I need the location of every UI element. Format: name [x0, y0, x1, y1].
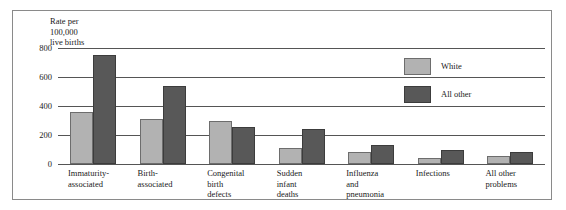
- bar-groups: [58, 48, 545, 164]
- x-category-label: Immaturity- associated: [68, 168, 144, 189]
- y-tick-label: 200: [26, 131, 52, 140]
- y-tick-label: 800: [26, 44, 52, 53]
- bar: [140, 119, 163, 164]
- bar: [487, 156, 510, 164]
- bar-group: [140, 48, 186, 164]
- bar: [302, 129, 325, 164]
- bar: [441, 150, 464, 165]
- x-category-label: Sudden infant deaths: [277, 168, 353, 200]
- bar: [371, 145, 394, 164]
- x-category-label: Birth- associated: [138, 168, 214, 189]
- x-category-label: Infections: [416, 168, 492, 179]
- x-axis-category-labels: Immaturity- associatedBirth- associatedC…: [58, 168, 545, 208]
- y-tick-label: 600: [26, 73, 52, 82]
- gridline-0: [58, 164, 545, 165]
- y-axis-tick-labels: 8006004002000: [26, 48, 52, 164]
- legend-item: All other: [404, 86, 471, 103]
- legend-swatch-icon: [404, 58, 431, 75]
- bar: [209, 121, 232, 164]
- bar-group: [487, 48, 533, 164]
- legend-item: White: [404, 58, 471, 75]
- y-tick-label: 0: [26, 160, 52, 169]
- bar-group: [70, 48, 116, 164]
- bar: [510, 152, 533, 164]
- y-tick-label: 400: [26, 102, 52, 111]
- bar: [279, 148, 302, 164]
- chart-legend: WhiteAll other: [404, 58, 471, 114]
- x-category-label: All other problems: [485, 168, 561, 189]
- bar-group: [209, 48, 255, 164]
- legend-label: All other: [441, 90, 471, 99]
- bar: [348, 152, 371, 164]
- bar: [418, 158, 441, 164]
- x-category-label: Influenza and pneumonia: [346, 168, 422, 200]
- bar-group: [279, 48, 325, 164]
- plot-area: [58, 48, 545, 164]
- chart-figure: Rate per 100,000 live births 80060040020…: [0, 0, 566, 210]
- bar: [163, 86, 186, 164]
- bar-group: [348, 48, 394, 164]
- y-axis-title: Rate per 100,000 live births: [50, 16, 84, 48]
- bar: [93, 55, 116, 164]
- x-category-label: Congenital birth defects: [207, 168, 283, 200]
- legend-label: White: [441, 62, 462, 71]
- bar: [70, 112, 93, 164]
- bar: [232, 127, 255, 164]
- legend-swatch-icon: [404, 86, 431, 103]
